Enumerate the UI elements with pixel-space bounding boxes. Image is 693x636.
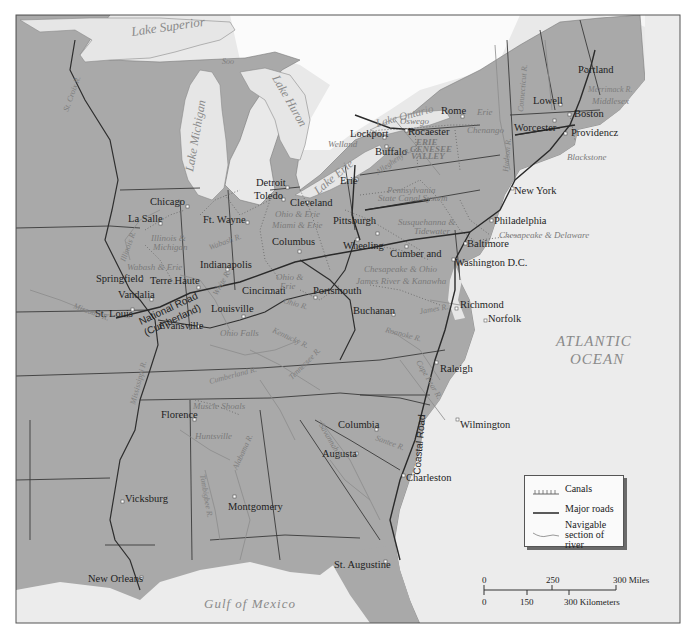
city-rome: Rome [441,105,466,116]
city-norfolk: Norfolk [488,313,522,324]
city-toledo: Toledo [254,190,283,201]
canal-ohio-falls: Ohio Falls [220,328,259,338]
label-atlantic: ATLANTIC [555,333,632,349]
city-providence: Providencz [571,127,619,138]
scale-km-300: 300 Kilometers [564,597,620,607]
city-portland: Portland [578,64,614,75]
canal-wabash-erie: Wabash & Erie [127,262,182,272]
city-ft-wayne: Ft. Wayne [203,214,246,225]
canal-erie: Erie [476,107,493,117]
scale-km-150: 150 [520,597,534,607]
city-pittsburgh: Pittsburgh [333,215,377,226]
legend-item-rivers: Navigable section of river [525,520,623,550]
canal-huntsville: Huntsville [194,431,232,441]
canal-chenango: Chenango [467,125,504,135]
city-lockport: Lockport [350,128,389,139]
city-detroit: Detroit [256,177,286,188]
city-vicksburg: Vicksburg [125,493,169,504]
city-lowell: Lowell [533,95,563,106]
city-columbus: Columbus [272,236,315,247]
city-new-york: New York [514,185,557,196]
canal-middlesex: Middlesex [591,96,629,106]
city-richmond: Richmond [460,299,504,310]
city-wheeling: Wheeling [343,240,385,251]
map-legend: Canals Major roads Navigable section of … [524,475,624,547]
city-cumberland: Cumber and [390,248,442,259]
city-springfield: Springfield [96,273,144,284]
city-boston: Boston [574,108,605,119]
city-buchanan: Buchanan [353,305,396,316]
city-la-salle: La Salle [128,213,163,224]
city-worcester: Worcester [514,122,557,133]
canal-symbol-icon [533,484,559,494]
road-symbol-icon [533,504,559,514]
city-cleveland: Cleveland [290,197,333,208]
canal-oswego: Oswego [400,116,429,126]
city-louisville: Louisville [211,303,254,314]
canal-susquehanna-2: Tidewater [414,226,451,236]
canal-erie-genesee-3: VALLEY [411,151,446,161]
city-washington: Washington D.C. [455,257,527,268]
legend-label-river-2: section of river [565,530,623,550]
city-chicago: Chicago [150,196,185,207]
canal-ohio-erie: Ohio & Erie [275,209,320,219]
city-wilmington: Wilmington [460,419,511,430]
legend-item-canals: Canals [525,484,592,494]
label-gulf-of-mexico: Gulf of Mexico [204,596,296,611]
city-terre-haute: Terre Haute [150,275,200,286]
city-vandalia: Vandalia [118,289,155,300]
scale-bar: 0 250 300 Miles 0 150 300 Kilometers [480,575,620,615]
scale-km-0: 0 [482,597,487,607]
river-symbol-icon [533,526,559,536]
canal-miami-erie: Miami & Erie [271,220,323,230]
scale-miles-250: 250 [546,575,560,585]
canal-chesapeake-ohio: Chesapeake & Ohio [364,264,437,274]
canal-blackstone: Blackstone [567,152,607,162]
canal-welland: Welland [328,139,358,149]
city-montgomery: Montgomery [228,501,284,512]
canal-illinois-michigan-2: Michigan [152,242,188,252]
legend-label-roads: Major roads [565,504,614,514]
label-ocean: OCEAN [570,351,624,367]
legend-item-roads: Major roads [525,504,614,514]
canal-ohio-erie-south-2: Erie [279,281,296,291]
city-rochester: Rocaester [408,126,450,137]
city-philadelphia: Philadelphia [494,215,547,226]
canal-chesapeake-delaware: Chesapeake & Delaware [499,230,589,240]
city-st-augustine: St. Augustine [334,559,391,570]
legend-label-canals: Canals [565,484,592,494]
river-merrimack: Merrimack R. [587,85,632,94]
canal-james-kanawha: James River & Kanawha [356,276,447,286]
scale-miles-0: 0 [482,575,487,585]
city-raleigh: Raleigh [440,363,473,374]
city-portsmouth: Portsmouth [313,285,362,296]
city-erie: Erie [340,175,358,186]
city-columbia: Columbia [338,419,380,430]
canal-pennsylvania-2: State Canal System [378,193,448,203]
city-soo: Soo [222,57,234,66]
scale-miles-300: 300 Miles [613,575,649,585]
canal-muscle-shoals: Muscle Shoals [192,401,246,411]
city-indianapolis: Indianapolis [200,259,252,270]
city-new-orleans: New Orleans [88,573,143,584]
